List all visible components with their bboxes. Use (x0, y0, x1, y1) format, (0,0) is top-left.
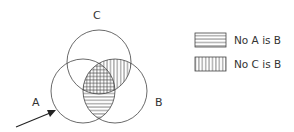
venn-diagram: C A B No A is B No C is B (0, 0, 294, 132)
arrow-icon (16, 110, 56, 127)
legend: No A is B No C is B (195, 33, 281, 71)
legend-label-2: No C is B (234, 58, 281, 70)
legend-swatch-vertical (195, 57, 226, 71)
legend-swatch-horizontal (195, 33, 226, 47)
label-b: B (155, 96, 163, 109)
label-c: C (93, 9, 101, 22)
label-a: A (32, 96, 40, 109)
legend-label-1: No A is B (234, 34, 281, 46)
